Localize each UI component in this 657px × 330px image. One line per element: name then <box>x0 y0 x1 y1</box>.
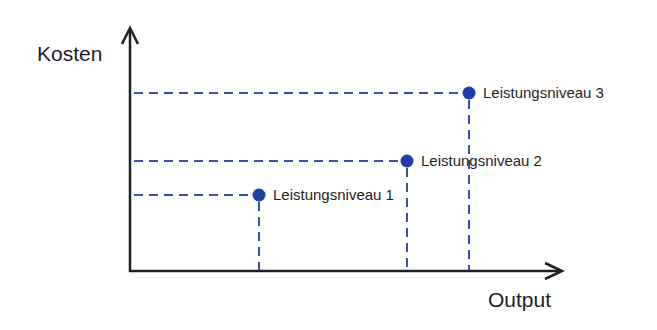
level-1-point <box>253 189 266 202</box>
level-3-point <box>463 87 476 100</box>
y-axis-label: Kosten <box>37 42 102 65</box>
level-3-label: Leistungsniveau 3 <box>483 84 604 101</box>
level-1-label: Leistungsniveau 1 <box>273 186 394 203</box>
cost-output-diagram: Kosten Output Leistungsniveau 3 Leistung… <box>0 0 657 330</box>
x-axis-label: Output <box>488 288 551 311</box>
level-2-label: Leistungsniveau 2 <box>421 152 542 169</box>
level-2-point <box>401 155 414 168</box>
